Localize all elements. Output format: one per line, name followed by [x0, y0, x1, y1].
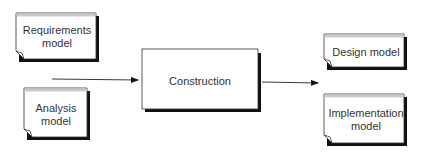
implementation-model-document: Implementation model	[324, 94, 407, 146]
analysis-model-document: Analysis model	[24, 88, 90, 140]
input-arrow	[52, 79, 138, 80]
requirements-model-document: Requirements model	[16, 13, 99, 62]
analysis-model-label-line2: model	[41, 115, 71, 127]
analysis-model-label-line1: Analysis	[36, 102, 77, 114]
construction-process-box: Construction	[142, 49, 261, 112]
requirements-model-label-line1: Requirements	[23, 24, 92, 36]
requirements-model-label-line2: model	[42, 37, 72, 49]
construction-label: Construction	[169, 75, 231, 87]
design-model-document: Design model	[324, 34, 407, 70]
design-model-label: Design model	[332, 46, 399, 58]
implementation-model-label-line1: Implementation	[328, 107, 403, 119]
construction-diagram: Requirements model Analysis model Constr…	[0, 0, 425, 158]
implementation-model-label-line2: model	[351, 120, 381, 132]
output-arrow	[262, 82, 318, 83]
